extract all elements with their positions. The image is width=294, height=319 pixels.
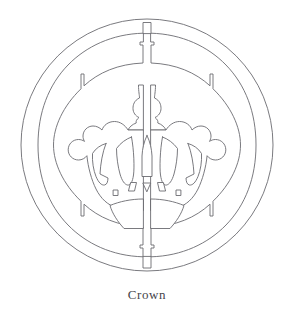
crown-center-spire-right [151,85,166,130]
stencil-page: Crown [0,0,294,319]
crown-center-spire-left [128,85,143,130]
crown-gem-center-triangle [143,183,151,192]
crown-center-leaf [142,136,152,177]
crown-stencil-figure [0,0,294,284]
crown-icon [0,0,294,284]
figure-caption: Crown [0,286,294,304]
top-bridge-tab [143,23,151,34]
crown-gem-square-left [114,190,119,196]
crown-gem-square-right [176,190,181,196]
bottom-bridge-tab [143,257,151,268]
